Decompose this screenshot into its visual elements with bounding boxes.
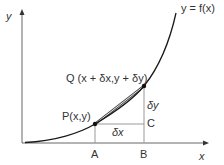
chord-PQ — [95, 86, 144, 124]
point-B-label: B — [140, 148, 147, 160]
y-axis-arrow-icon — [20, 9, 25, 15]
dx-label: δx — [112, 126, 124, 138]
point-Q-label: Q (x + δx,y + δy) — [66, 72, 147, 84]
point-Q — [142, 84, 146, 88]
dy-label: δy — [147, 99, 160, 111]
diagram-svg: y x y = f(x) Q (x + δx,y + δy) P(x,y) δy… — [0, 0, 224, 165]
point-P-label: P(x,y) — [62, 110, 91, 122]
x-axis-label: x — [198, 150, 205, 162]
point-C-label: C — [147, 117, 155, 129]
x-axis-arrow-icon — [203, 141, 209, 146]
diagram-canvas: y x y = f(x) Q (x + δx,y + δy) P(x,y) δy… — [0, 0, 224, 165]
curve-label: y = f(x) — [181, 2, 215, 14]
point-P — [93, 122, 97, 126]
point-A-label: A — [91, 148, 99, 160]
y-axis-label: y — [5, 10, 13, 22]
